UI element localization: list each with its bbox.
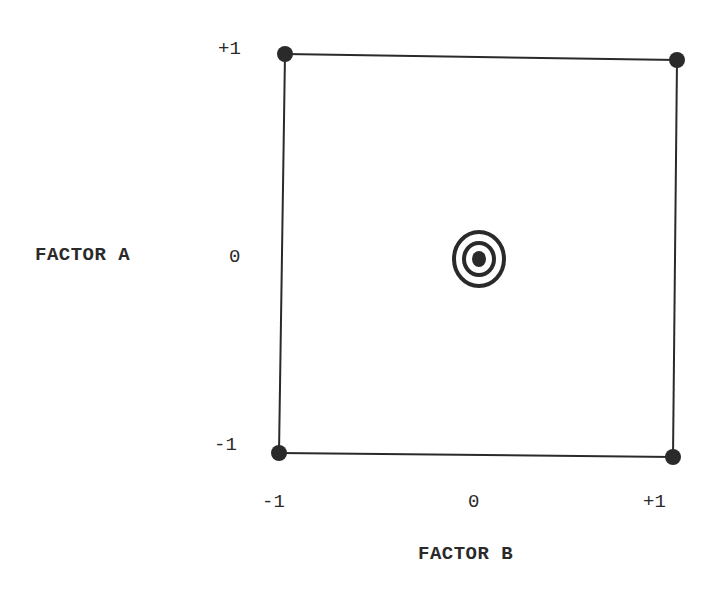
point-a-plus-b-minus <box>277 46 293 62</box>
point-a-minus-b-minus <box>271 445 287 461</box>
x-tick-plus1: +1 <box>643 493 666 512</box>
x-tick-minus1: -1 <box>262 493 285 512</box>
x-tick-zero: 0 <box>468 493 479 512</box>
y-tick-minus1: -1 <box>214 436 237 455</box>
center-dot <box>472 251 486 267</box>
y-axis-title: FACTOR A <box>35 246 130 265</box>
center-point <box>454 232 504 286</box>
y-tick-zero: 0 <box>229 248 240 267</box>
right-edge <box>673 60 677 457</box>
bottom-edge <box>279 453 673 457</box>
left-edge <box>279 54 285 453</box>
design-diagram <box>0 0 720 596</box>
point-a-minus-b-plus <box>665 449 681 465</box>
x-axis-title: FACTOR B <box>418 545 513 564</box>
point-a-plus-b-plus <box>669 52 685 68</box>
y-tick-plus1: +1 <box>218 40 241 59</box>
top-edge <box>285 54 677 60</box>
